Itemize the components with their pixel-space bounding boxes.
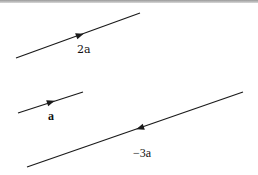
arrowhead-icon	[75, 33, 84, 39]
vector-label-a: a	[48, 110, 54, 122]
arrowhead-icon	[136, 124, 145, 130]
vector-label-2a: 2a	[77, 44, 91, 56]
arrowhead-icon	[46, 100, 55, 106]
vector-diagram	[0, 0, 258, 175]
vector-label-minus-3a: −3a	[133, 147, 151, 159]
